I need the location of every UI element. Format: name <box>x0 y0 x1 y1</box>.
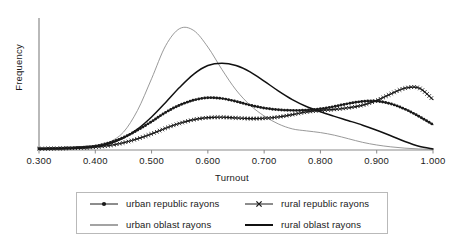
series-marker <box>200 97 203 100</box>
series-marker <box>139 127 142 130</box>
chart-series-group <box>37 27 433 150</box>
series-marker <box>271 108 274 111</box>
series-marker <box>340 104 343 107</box>
series-marker <box>154 118 157 121</box>
series-marker <box>430 122 433 125</box>
series-marker <box>265 107 268 110</box>
series-marker <box>277 108 280 111</box>
series-marker <box>430 96 434 100</box>
legend-item-rural-republic-rayons[interactable]: rural republic rayons <box>232 198 387 210</box>
x-axis-tick-label: 0.600 <box>188 155 228 166</box>
series-marker <box>159 114 162 117</box>
x-axis-label: Turnout <box>0 172 464 183</box>
series-marker <box>242 102 245 105</box>
series-marker <box>177 104 180 107</box>
series-marker <box>420 116 423 119</box>
legend-label: urban oblast rayons <box>126 219 211 230</box>
series-marker <box>262 106 265 109</box>
series-marker <box>126 134 129 137</box>
legend-label: rural republic rayons <box>281 198 369 209</box>
series-marker <box>123 136 126 139</box>
x-axis-tick-label: 0.400 <box>75 155 115 166</box>
series-marker <box>415 113 418 116</box>
series-rural-republic-rayons <box>37 85 433 150</box>
series-marker <box>283 109 286 112</box>
legend-label: rural oblast rayons <box>281 219 361 230</box>
series-marker <box>209 96 212 99</box>
x-axis-ticks <box>39 150 433 154</box>
series-line <box>39 98 433 149</box>
series-marker <box>292 109 295 112</box>
series-marker <box>407 109 410 112</box>
series-marker <box>144 124 147 127</box>
series-marker <box>167 109 170 112</box>
series-marker <box>206 96 209 99</box>
series-marker <box>245 103 248 106</box>
series-marker <box>398 106 401 109</box>
series-marker <box>131 132 134 135</box>
series-marker <box>280 109 283 112</box>
series-marker <box>354 101 357 104</box>
series-marker <box>134 130 137 133</box>
series-marker <box>164 111 167 114</box>
series-marker <box>218 97 221 100</box>
x-axis-tick-label: 0.700 <box>244 155 284 166</box>
series-marker <box>186 101 189 104</box>
series-marker <box>115 139 118 142</box>
series-marker <box>295 109 298 112</box>
series-marker <box>120 137 123 140</box>
x-axis-tick-label: 0.300 <box>19 155 59 166</box>
urban-republic-rayons-marker-icon <box>89 198 119 210</box>
legend-item-rural-oblast-rayons[interactable]: rural oblast rayons <box>232 219 387 231</box>
series-marker <box>230 99 233 102</box>
chart-figure: Frequency Turnout 0.3000.4000.5000.6000.… <box>0 0 464 242</box>
series-marker <box>192 99 195 102</box>
series-marker <box>172 107 175 110</box>
series-marker <box>289 109 292 112</box>
legend-item-urban-oblast-rayons[interactable]: urban oblast rayons <box>77 219 232 231</box>
series-line <box>39 27 433 149</box>
series-marker <box>236 100 239 103</box>
series-marker <box>212 96 215 99</box>
series-marker <box>422 118 425 121</box>
series-marker <box>396 104 399 107</box>
series-marker <box>250 104 253 107</box>
series-urban-republic-rayons <box>38 96 434 150</box>
series-marker <box>197 97 200 100</box>
series-marker <box>162 113 165 116</box>
series-marker <box>345 102 348 105</box>
series-marker <box>381 100 384 103</box>
rural-oblast-rayons-marker-icon <box>244 219 274 231</box>
series-marker <box>221 97 224 100</box>
series-marker <box>233 100 236 103</box>
series-marker <box>393 103 396 106</box>
series-marker <box>428 121 431 124</box>
series-marker <box>256 105 259 108</box>
series-marker <box>253 105 256 108</box>
series-marker <box>274 108 277 111</box>
x-axis-tick-label: 0.800 <box>300 155 340 166</box>
y-axis-label: Frequency <box>13 28 24 108</box>
series-marker <box>180 103 183 106</box>
series-marker <box>348 102 351 105</box>
series-marker <box>268 107 271 110</box>
series-marker <box>147 122 150 125</box>
x-axis-tick-label: 0.500 <box>132 155 172 166</box>
series-line <box>39 63 433 149</box>
series-marker <box>157 116 160 119</box>
series-marker <box>337 104 340 107</box>
rural-republic-rayons-marker-icon <box>244 198 274 210</box>
series-marker <box>409 111 412 114</box>
series-marker <box>189 100 192 103</box>
series-marker <box>360 100 363 103</box>
series-marker <box>259 106 262 109</box>
series-marker <box>401 107 404 110</box>
series-marker <box>112 140 115 143</box>
series-marker <box>247 103 250 106</box>
series-marker <box>286 109 289 112</box>
legend-item-urban-republic-rayons[interactable]: urban republic rayons <box>77 198 232 210</box>
series-marker <box>175 105 178 108</box>
series-marker <box>149 121 152 124</box>
series-marker <box>227 98 230 101</box>
series-marker <box>215 96 218 99</box>
